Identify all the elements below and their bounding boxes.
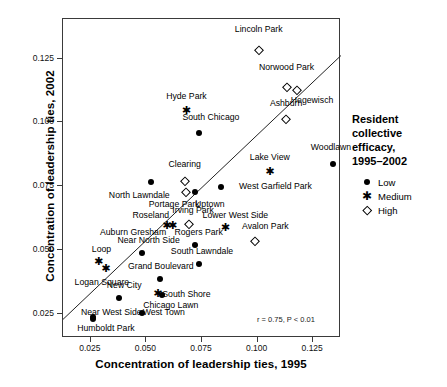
legend-title-line: Resident — [352, 112, 444, 126]
data-point — [157, 276, 163, 282]
data-point — [148, 179, 154, 185]
data-point — [196, 261, 202, 267]
data-point-label: Clearing — [168, 160, 200, 169]
data-point-label: Loop — [92, 245, 111, 254]
data-point-label: Woodlawn — [311, 143, 351, 152]
data-point-label: Avalon Park — [242, 222, 289, 231]
x-tick-label: 0.100 — [237, 343, 277, 353]
y-tick-label: 0.050 — [20, 244, 54, 254]
legend-title-line: collective — [352, 126, 444, 140]
star-icon: ✱ — [360, 191, 374, 201]
data-point — [218, 184, 224, 190]
legend: Residentcollectiveefficacy,1995–2002 Low… — [352, 112, 444, 217]
legend-title: Residentcollectiveefficacy,1995–2002 — [352, 112, 444, 168]
correlation-annotation: r = 0.75, P < 0.01 — [257, 315, 315, 324]
legend-items: Low✱MediumHigh — [352, 175, 444, 217]
data-point — [116, 295, 122, 301]
data-point — [139, 250, 145, 256]
y-tick-label: 0.075 — [20, 180, 54, 190]
data-point-label: Grand Boulevard — [128, 262, 194, 271]
y-axis-title: Concentration of leadership ties, 2002 — [44, 26, 56, 326]
data-point-label: Near West Side — [81, 308, 142, 317]
legend-item-label: High — [378, 205, 398, 216]
data-point-label: Near North Side — [117, 236, 179, 245]
data-point — [90, 316, 96, 322]
data-point — [330, 161, 336, 167]
legend-title-line: 1995–2002 — [352, 154, 444, 168]
y-tick-label: 0.125 — [20, 53, 54, 63]
data-point-label: South Shore — [162, 290, 210, 299]
legend-item-label: Medium — [378, 191, 412, 202]
data-point-label: South Lawndale — [171, 247, 233, 256]
data-point-label: Rogers Park — [175, 228, 223, 237]
x-tick-label: 0.025 — [70, 343, 110, 353]
data-point: ✱ — [265, 169, 275, 177]
data-point-label: West Town — [143, 308, 185, 317]
data-point — [196, 130, 202, 136]
legend-title-line: efficacy, — [352, 140, 444, 154]
x-axis-title: Concentration of leadership ties, 1995 — [62, 358, 340, 370]
data-point-label: Lincoln Park — [235, 25, 283, 34]
legend-item-low[interactable]: Low — [360, 175, 444, 189]
legend-item-label: Low — [378, 177, 395, 188]
data-point-label: Lake View — [250, 153, 290, 162]
scatter-plot-figure: Concentration of leadership ties, 2002 C… — [0, 0, 447, 387]
plot-area: ✱✱✱✱✱✱✱✱ Lincoln ParkNorwood ParkHegewis… — [62, 18, 340, 337]
filled-circle-icon — [360, 179, 374, 185]
x-tick-label: 0.125 — [292, 343, 332, 353]
x-tick-label: 0.075 — [181, 343, 221, 353]
open-diamond-icon — [360, 207, 374, 214]
data-point-label: South Chicago — [182, 113, 239, 122]
data-point-label: Humboldt Park — [77, 324, 134, 333]
data-point-label: Roseland — [132, 211, 169, 220]
legend-item-medium[interactable]: ✱Medium — [360, 189, 444, 203]
data-point-label: Ashburn — [270, 99, 302, 108]
y-tick-label: 0.100 — [20, 116, 54, 126]
data-point: ✱ — [101, 266, 111, 274]
data-point — [192, 189, 198, 195]
data-point-label: Lower West Side — [203, 211, 269, 220]
data-point-label: West Garfield Park — [239, 182, 312, 191]
y-tick-label: 0.025 — [20, 308, 54, 318]
data-point-label: Norwood Park — [259, 63, 314, 72]
data-point-label: Hyde Park — [166, 92, 207, 101]
data-point-label: New City — [107, 281, 142, 290]
x-tick-label: 0.050 — [125, 343, 165, 353]
legend-item-high[interactable]: High — [360, 203, 444, 217]
